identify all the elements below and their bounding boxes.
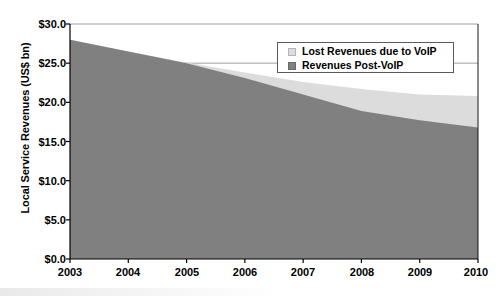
scan-artifact (0, 288, 280, 296)
x-tick-label-2006: 2006 (233, 266, 257, 278)
legend-item-post-voip: Revenues Post-VoIP (288, 59, 453, 72)
x-tick-label-2003: 2003 (58, 266, 82, 278)
y-tick-label-1: $5.0 (18, 214, 66, 226)
x-tick-label-2007: 2007 (291, 266, 315, 278)
legend-item-lost-revenues: Lost Revenues due to VoIP (288, 45, 453, 58)
legend-swatch-lost-revenues (288, 48, 296, 56)
y-tick-label-0: $0.0 (18, 253, 66, 265)
x-tick-label-2008: 2008 (350, 266, 374, 278)
legend-label-lost-revenues: Lost Revenues due to VoIP (302, 46, 437, 57)
y-tick-label-3: $15.0 (18, 136, 66, 148)
x-tick-label-2004: 2004 (116, 266, 140, 278)
y-tick-label-6: $30.0 (18, 18, 66, 30)
y-tick-label-4: $20.0 (18, 96, 66, 108)
x-tick-label-2010: 2010 (464, 266, 488, 278)
x-tick-label-2009: 2009 (408, 266, 432, 278)
legend-swatch-post-voip (288, 62, 296, 70)
y-tick-label-2: $10.0 (18, 175, 66, 187)
y-tick-label-5: $25.0 (18, 57, 66, 69)
legend: Lost Revenues due to VoIP Revenues Post-… (277, 42, 454, 73)
x-tick-label-2005: 2005 (175, 266, 199, 278)
chart-container: Local Service Revenues (US$ bn) $0.0 $5.… (0, 0, 501, 298)
legend-label-post-voip: Revenues Post-VoIP (302, 60, 403, 71)
y-axis-tick-labels: $0.0 $5.0 $10.0 $15.0 $20.0 $25.0 $30.0 (0, 0, 66, 298)
